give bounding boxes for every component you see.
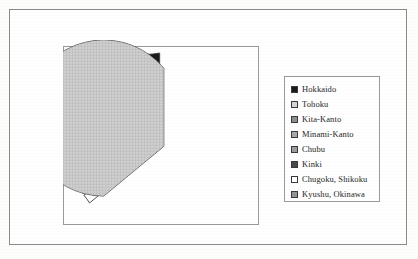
legend-swatch-icon (291, 191, 298, 198)
legend-item: Kyushu, Okinawa (291, 187, 375, 201)
pie-chart (63, 40, 259, 235)
legend-swatch-icon (291, 161, 298, 168)
figure-outer-frame: HokkaidoTohokuKita-KantoMinami-KantoChub… (9, 9, 407, 245)
legend-label: Tohoku (302, 99, 328, 109)
legend-swatch-icon (291, 101, 298, 108)
pie-chart-svg (63, 40, 259, 235)
legend-item: Kita-Kanto (291, 112, 375, 126)
legend-swatch-icon (291, 176, 298, 183)
legend-item: Minami-Kanto (291, 127, 375, 141)
legend-item: Chubu (291, 142, 375, 156)
legend-label: Hokkaido (302, 84, 336, 94)
legend-swatch-icon (291, 116, 298, 123)
legend-item: Hokkaido (291, 82, 375, 96)
legend-swatch-icon (291, 146, 298, 153)
legend-label: Kinki (302, 159, 322, 169)
pie-slice-texture (63, 40, 164, 196)
legend-label: Minami-Kanto (302, 129, 354, 139)
legend: HokkaidoTohokuKita-KantoMinami-KantoChub… (284, 76, 380, 202)
legend-swatch-icon (291, 131, 298, 138)
legend-item: Kinki (291, 157, 375, 171)
legend-label: Chubu (302, 144, 325, 154)
screenshot-root: HokkaidoTohokuKita-KantoMinami-KantoChub… (0, 0, 418, 259)
legend-item: Chugoku, Shikoku (291, 172, 375, 186)
legend-label: Kita-Kanto (302, 114, 341, 124)
pie-slice-group (63, 40, 164, 203)
legend-label: Kyushu, Okinawa (302, 189, 365, 199)
legend-swatch-icon (291, 86, 298, 93)
legend-label: Chugoku, Shikoku (302, 174, 367, 184)
legend-item: Tohoku (291, 97, 375, 111)
